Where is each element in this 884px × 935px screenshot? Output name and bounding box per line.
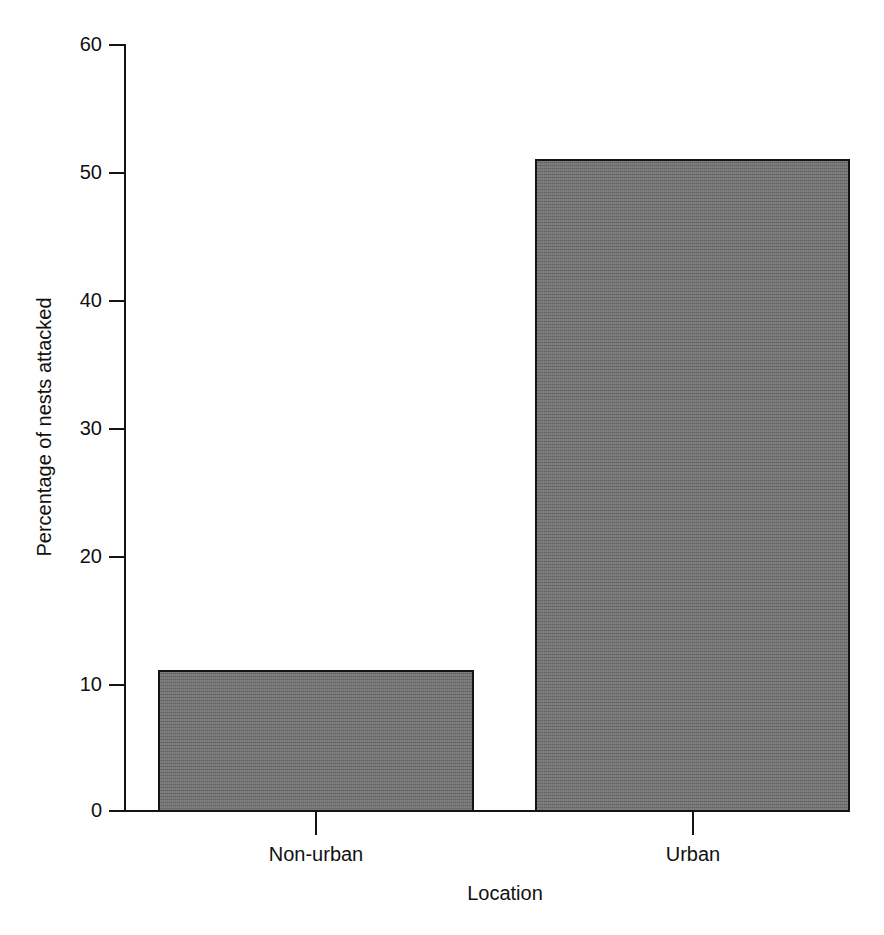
x-axis-title: Location [124,882,884,904]
y-tick-0 [109,810,125,812]
y-tick-20 [109,556,125,558]
bar-texture [537,161,848,810]
x-tick-label-non-urban: Non-urban [269,843,364,865]
y-tick-50 [109,172,125,174]
plot-area: 60 50 40 30 20 10 0 Non-urban Urban Perc… [0,0,884,935]
y-tick-30 [109,428,125,430]
y-axis-title: Percentage of nests attacked [34,47,54,807]
y-tick-60 [109,44,125,46]
x-tick-urban [692,812,694,835]
x-tick-non-urban [315,812,317,835]
y-tick-10 [109,684,125,686]
bar-urban [535,159,850,812]
y-tick-40 [109,300,125,302]
x-tick-label-urban: Urban [666,843,720,865]
bar-non-urban [158,670,474,812]
bar-texture [160,672,472,810]
bar-chart-figure: 60 50 40 30 20 10 0 Non-urban Urban Perc… [0,0,884,935]
